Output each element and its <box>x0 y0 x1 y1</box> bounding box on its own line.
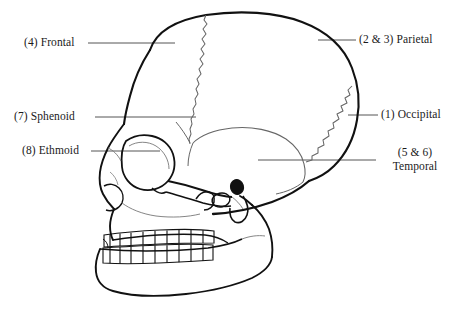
coronal-suture <box>189 15 207 144</box>
lower-teeth-row <box>103 244 213 264</box>
orbit-socket <box>122 135 175 190</box>
nasal-aperture <box>104 184 123 210</box>
label-ethmoid: (8) Ethmoid <box>22 144 79 158</box>
label-temporal-number: (5 & 6) <box>379 146 451 160</box>
label-parietal-text: (2 & 3) Parietal <box>359 33 432 45</box>
sphenoid-pterion-line <box>176 122 190 143</box>
label-temporal: (5 & 6) Temporal <box>379 146 451 174</box>
external-auditory-meatus <box>229 178 246 196</box>
label-parietal: (2 & 3) Parietal <box>359 33 432 47</box>
sphenoid-greater-wing <box>188 143 193 166</box>
mandible-oblique-line <box>242 236 265 239</box>
orbital-anterior-contour <box>100 124 124 209</box>
skull-diagram-figure: (4) Frontal (7) Sphenoid (8) Ethmoid (2 … <box>0 0 460 316</box>
label-temporal-name: Temporal <box>379 160 451 174</box>
nasal-bone-line <box>108 148 121 161</box>
calvaria-superior-contour <box>150 12 359 181</box>
leader-lines <box>88 40 378 160</box>
maxilla-cheek-line <box>122 203 200 217</box>
mandible-ramus-posterior <box>252 205 272 257</box>
frontal-bone-anterior-contour <box>124 50 150 124</box>
nasal-septum-line <box>110 172 118 185</box>
label-ethmoid-text: (8) Ethmoid <box>22 144 79 156</box>
mandible-inferior-border <box>96 249 272 296</box>
cranium-outline <box>124 12 359 181</box>
label-frontal: (4) Frontal <box>24 36 75 50</box>
squamosal-suture <box>193 127 305 182</box>
maxilla-anterior-border <box>110 209 114 240</box>
temporal-condylar-detail <box>232 197 243 209</box>
zygomatic-arch-inferior <box>166 192 231 206</box>
label-occipital: (1) Occipital <box>381 108 441 122</box>
label-occipital-text: (1) Occipital <box>381 108 441 120</box>
label-sphenoid: (7) Sphenoid <box>14 110 75 124</box>
orbit-inner-rim <box>129 142 169 169</box>
label-frontal-text: (4) Frontal <box>24 36 75 48</box>
maxillary-tuberosity <box>205 235 228 243</box>
label-sphenoid-text: (7) Sphenoid <box>14 110 75 122</box>
